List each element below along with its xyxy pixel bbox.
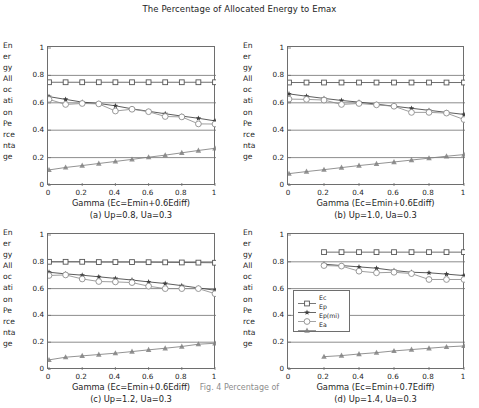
x-tick-label: 0.8 (418, 188, 438, 197)
y-tick-label: 0.8 (25, 70, 44, 79)
y-axis-label-line: En (3, 40, 13, 51)
x-tick-label: 0.4 (348, 188, 368, 197)
y-tick-label: 0.4 (265, 125, 284, 134)
chart-panel-d: EnergyAllocationPercentage00.20.40.60.81… (240, 205, 479, 408)
figure-caption: Fig. 4 Percentage of (0, 383, 479, 392)
y-axis-label-line: All (3, 73, 12, 84)
chart-legend[interactable]: EcEpEp(mi)Ea (293, 290, 350, 332)
x-tick-label: 0.4 (348, 372, 368, 381)
y-tick-label: 1 (265, 43, 284, 52)
y-axis-label-line: nta (243, 327, 255, 338)
figure-title: The Percentage of Allocated Energy to Em… (0, 4, 479, 14)
legend-item-epmi[interactable]: Ep(mi) (297, 311, 345, 320)
panel-caption: (d) Up=1.4, Ua=0.3 (257, 394, 479, 404)
x-tick-label: 0 (278, 188, 298, 197)
y-axis-label-line: on (243, 294, 252, 305)
y-axis-label-line: gy (243, 62, 252, 73)
y-axis-label-line: gy (243, 249, 252, 260)
y-axis-label-line: gy (3, 249, 12, 260)
y-tick-label: 0.4 (25, 310, 44, 319)
chart-panel-a: EnergyAllocationPercentage00.20.40.60.81… (0, 18, 241, 227)
y-axis-label-line: nta (3, 327, 15, 338)
x-tick-label: 0.8 (171, 188, 191, 197)
x-tick-label: 0.2 (71, 188, 91, 197)
x-tick-label: 0.6 (138, 372, 158, 381)
y-tick-label: 0.6 (265, 283, 284, 292)
y-axis-label-line: rce (243, 129, 255, 140)
x-tick-label: 0 (38, 188, 58, 197)
y-axis-label-line: Pe (243, 118, 252, 129)
x-tick-label: 0.4 (104, 188, 124, 197)
chart-panel-c: EnergyAllocationPercentage00.20.40.60.81… (0, 205, 241, 408)
x-tick-label: 0.2 (313, 372, 333, 381)
panel-caption: (c) Up=1.2, Ua=0.3 (17, 394, 245, 404)
y-axis-label-line: ge (243, 338, 253, 349)
plot-frame (287, 46, 464, 185)
y-axis-label-line: oc (3, 84, 12, 95)
legend-label: Ep (319, 303, 327, 310)
y-axis-label-line: All (243, 73, 252, 84)
y-tick-label: 1 (25, 43, 44, 52)
y-tick-label: 0.8 (265, 256, 284, 265)
x-tick-label: 0.6 (383, 188, 403, 197)
y-tick-label: 0.2 (25, 337, 44, 346)
x-tick-label: 0.6 (138, 188, 158, 197)
y-axis-label-line: er (3, 238, 11, 249)
y-axis-label-line: En (243, 40, 253, 51)
y-axis-label-line: nta (3, 140, 15, 151)
legend-label: Ec (319, 294, 326, 301)
y-tick-label: 0.4 (265, 310, 284, 319)
y-axis-label-line: on (3, 294, 12, 305)
plot-frame (47, 233, 215, 369)
y-axis-label-line: En (3, 227, 13, 238)
y-tick-label: 0.4 (25, 125, 44, 134)
y-axis-label-line: on (3, 107, 12, 118)
y-axis-label-line: on (243, 107, 252, 118)
legend-marker-icon (297, 293, 317, 302)
legend-marker-icon (297, 302, 317, 311)
y-axis-label-line: rce (243, 316, 255, 327)
legend-marker-icon (297, 320, 317, 329)
x-tick-label: 1 (204, 188, 224, 197)
x-tick-label: 0.8 (171, 372, 191, 381)
y-tick-label: 0.8 (25, 256, 44, 265)
legend-item-ep[interactable]: Ep (297, 302, 345, 311)
y-axis-label-line: oc (3, 271, 12, 282)
y-axis-label-line: er (243, 51, 251, 62)
y-axis-label-line: Pe (3, 305, 12, 316)
y-axis-label-line: ati (3, 282, 13, 293)
y-axis-label-line: rce (3, 316, 15, 327)
y-axis-label: EnergyAllocationPercentage (243, 40, 255, 162)
y-axis-label-line: oc (243, 84, 252, 95)
x-tick-label: 0 (278, 372, 298, 381)
legend-marker-icon (297, 311, 317, 320)
y-axis-label: EnergyAllocationPercentage (3, 227, 15, 349)
x-tick-label: 1 (453, 372, 473, 381)
y-axis-label-line: rce (3, 129, 15, 140)
x-tick-label: 0.2 (313, 188, 333, 197)
y-tick-label: 0.8 (265, 70, 284, 79)
y-axis-label-line: ge (243, 151, 253, 162)
y-axis-label-line: ati (3, 95, 13, 106)
x-tick-label: 0.8 (418, 372, 438, 381)
y-tick-label: 0.2 (265, 337, 284, 346)
x-tick-label: 0 (38, 372, 58, 381)
plot-area-c (47, 233, 215, 369)
y-tick-label: 0.6 (25, 97, 44, 106)
plot-area-b (287, 46, 464, 185)
y-tick-label: 0.2 (265, 152, 284, 161)
y-axis-label-line: Pe (3, 118, 12, 129)
y-axis-label-line: er (243, 238, 251, 249)
x-tick-label: 0.4 (104, 372, 124, 381)
legend-item-ea[interactable]: Ea (297, 320, 345, 329)
x-tick-label: 1 (453, 188, 473, 197)
y-tick-label: 0.6 (265, 97, 284, 106)
y-axis-label-line: ati (243, 282, 253, 293)
y-axis-label-line: gy (3, 62, 12, 73)
y-axis-label-line: Pe (243, 305, 252, 316)
plot-frame (47, 46, 215, 185)
plot-area-a (47, 46, 215, 185)
legend-item-ec[interactable]: Ec (297, 293, 345, 302)
y-axis-label: EnergyAllocationPercentage (3, 40, 15, 162)
